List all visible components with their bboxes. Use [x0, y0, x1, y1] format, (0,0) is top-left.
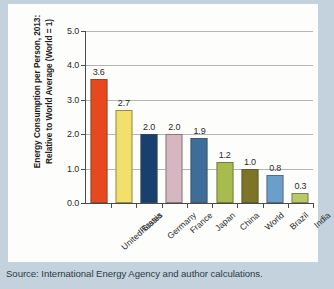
bar[interactable] [141, 134, 158, 203]
x-axis-label: Brazil [288, 210, 311, 232]
bar-slot: 2.7 [111, 31, 136, 203]
bar-slot: 1.9 [187, 31, 212, 203]
y-axis-title: Energy Consumption per Person, 2013: Rel… [32, 4, 55, 180]
y-tick-label: 4.0 [67, 60, 79, 70]
x-axis-label: China [238, 210, 261, 232]
bar-value-label: 3.6 [93, 67, 105, 77]
bar-slot: 0.3 [288, 31, 313, 203]
y-tick-label: 1.0 [67, 164, 79, 174]
x-tick-mark [288, 203, 289, 208]
x-tick-mark [111, 203, 112, 208]
x-tick-mark [162, 203, 163, 208]
x-axis-label: World [263, 210, 286, 232]
chart-page: Energy Consumption per Person, 2013: Rel… [0, 0, 334, 289]
x-tick-mark [212, 203, 213, 208]
x-tick-mark [263, 203, 264, 208]
chart-card: Energy Consumption per Person, 2013: Rel… [8, 4, 318, 262]
x-axis-line [85, 203, 313, 204]
bar-value-label: 0.3 [294, 181, 306, 191]
x-axis-label: Japan [213, 210, 237, 233]
x-tick-mark [313, 203, 314, 208]
bar[interactable] [90, 79, 107, 203]
bar[interactable] [216, 162, 233, 203]
y-tick-label: 2.0 [67, 129, 79, 139]
bar-slot: 3.6 [86, 31, 111, 203]
bar[interactable] [115, 110, 132, 203]
bar[interactable] [191, 138, 208, 203]
bar-slot: 0.8 [263, 31, 288, 203]
bar[interactable] [241, 169, 258, 203]
x-axis-label: Russia [138, 210, 164, 235]
bar[interactable] [166, 134, 183, 203]
bar-value-label: 2.0 [143, 122, 155, 132]
bar-value-label: 0.8 [269, 163, 281, 173]
y-tick-label: 5.0 [67, 26, 79, 36]
bar-slot: 1.0 [237, 31, 262, 203]
bar-value-label: 2.0 [168, 122, 180, 132]
plot-area: 0.01.02.03.04.05.0 3.62.72.02.01.91.21.0… [86, 31, 313, 203]
source-note: Source: International Energy Agency and … [6, 268, 263, 279]
bar-value-label: 1.9 [194, 126, 206, 136]
bar-slot: 1.2 [212, 31, 237, 203]
y-tick-label: 0.0 [67, 198, 79, 208]
bar-value-label: 1.0 [244, 157, 256, 167]
bar[interactable] [292, 193, 309, 203]
bar-value-label: 1.2 [219, 150, 231, 160]
x-tick-mark [237, 203, 238, 208]
x-tick-mark [136, 203, 137, 208]
x-tick-mark [187, 203, 188, 208]
bar-slot: 2.0 [162, 31, 187, 203]
y-tick-label: 3.0 [67, 95, 79, 105]
bar-slot: 2.0 [136, 31, 161, 203]
bar-value-label: 2.7 [118, 98, 130, 108]
bar[interactable] [267, 175, 284, 203]
bar-series: 3.62.72.02.01.91.21.00.80.3 [86, 31, 313, 203]
x-axis-label: India [312, 210, 333, 230]
